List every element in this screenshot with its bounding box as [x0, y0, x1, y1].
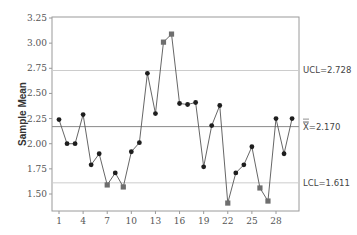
- data-point: [290, 116, 295, 121]
- x-tick-label: 1: [56, 216, 62, 226]
- data-point: [249, 144, 254, 149]
- x-tick-label: 25: [246, 216, 258, 226]
- data-point: [89, 162, 94, 167]
- plot-frame: [52, 17, 299, 211]
- axes: 1.501.752.002.252.502.753.003.2514710131…: [27, 13, 282, 226]
- y-tick-label: 2.50: [27, 88, 47, 98]
- data-point: [274, 116, 279, 121]
- sample-mean-series: [57, 31, 295, 205]
- data-point: [233, 170, 238, 175]
- data-point: [209, 123, 214, 128]
- data-point: [201, 164, 206, 169]
- data-point: [177, 101, 182, 106]
- center-line-label: X=2.170: [303, 122, 340, 132]
- ucl-label: UCL=2.728: [303, 65, 351, 75]
- out-of-control-point: [169, 31, 174, 36]
- x-tick-label: 13: [150, 216, 162, 226]
- y-tick-label: 2.00: [27, 139, 47, 149]
- data-point: [129, 149, 134, 154]
- data-point: [137, 140, 142, 145]
- x-tick-label: 7: [104, 216, 110, 226]
- data-point: [153, 111, 158, 116]
- out-of-control-point: [161, 40, 166, 45]
- data-point: [241, 162, 246, 167]
- data-point: [185, 102, 190, 107]
- lcl-label: LCL=1.611: [303, 178, 350, 188]
- x-tick-label: 22: [222, 216, 233, 226]
- limit-labels: UCL=2.728 X=2.170 LCL=1.611: [303, 65, 351, 187]
- xbar-control-chart: 1.501.752.002.252.502.753.003.2514710131…: [0, 0, 357, 235]
- x-tick-label: 28: [270, 216, 282, 226]
- x-tick-label: 19: [198, 216, 210, 226]
- y-tick-label: 3.00: [27, 38, 47, 48]
- y-tick-label: 1.75: [27, 164, 47, 174]
- out-of-control-point: [265, 198, 270, 203]
- center-value: =2.170: [309, 122, 340, 132]
- data-point: [217, 103, 222, 108]
- data-point: [73, 141, 78, 146]
- data-point: [113, 170, 118, 175]
- x-tick-label: 16: [174, 216, 186, 226]
- y-tick-label: 1.50: [27, 189, 47, 199]
- series-line: [59, 34, 292, 203]
- data-point: [57, 117, 62, 122]
- x-tick-label: 10: [126, 216, 138, 226]
- out-of-control-point: [225, 200, 230, 205]
- data-point: [145, 71, 150, 76]
- y-axis-title: Sample Mean: [17, 82, 28, 146]
- data-point: [81, 112, 86, 117]
- y-tick-label: 3.25: [27, 13, 47, 23]
- y-tick-label: 2.75: [27, 63, 47, 73]
- out-of-control-point: [257, 185, 262, 190]
- out-of-control-point: [121, 184, 126, 189]
- y-tick-label: 2.25: [27, 114, 47, 124]
- plot-border: [52, 17, 299, 211]
- data-point: [97, 151, 102, 156]
- data-point: [193, 100, 198, 105]
- data-point: [65, 141, 70, 146]
- out-of-control-point: [105, 182, 110, 187]
- data-point: [282, 151, 287, 156]
- x-tick-label: 4: [80, 216, 86, 226]
